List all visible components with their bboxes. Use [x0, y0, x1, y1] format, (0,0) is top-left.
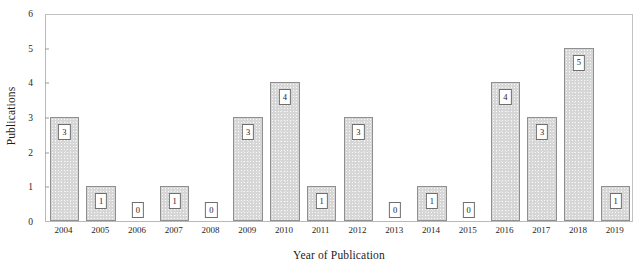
x-tick-label: 2009 [238, 225, 256, 235]
bar-slot: 0 [380, 15, 409, 221]
x-tick-label: 2015 [459, 225, 477, 235]
bar-value-label: 1 [609, 193, 621, 209]
y-tick-label: 6 [28, 9, 33, 19]
bar-value-label: 3 [536, 124, 548, 140]
bar-value-label: 5 [573, 55, 585, 71]
y-tick-label: 4 [28, 78, 33, 88]
y-axis-tick-labels: 0123456 [22, 14, 38, 222]
bar-value-label: 4 [499, 89, 511, 105]
bar[interactable]: 4 [491, 82, 520, 221]
bar[interactable]: 5 [564, 48, 593, 221]
plot-area: 3101034130104351 [45, 14, 633, 222]
bar-value-label: 3 [58, 124, 70, 140]
bar-value-label: 1 [315, 193, 327, 209]
bar-slot: 3 [50, 15, 79, 221]
x-tick-label: 2014 [422, 225, 440, 235]
bar[interactable]: 1 [307, 186, 336, 221]
bar-value-label: 0 [389, 202, 401, 218]
x-tick-label: 2019 [606, 225, 624, 235]
bar-value-label: 1 [168, 193, 180, 209]
bar-slot: 3 [344, 15, 373, 221]
publications-bar-chart: Publications 0123456 3101034130104351 20… [0, 0, 643, 273]
bar-slot: 1 [601, 15, 630, 221]
x-axis-tick-labels: 2004200520062007200820092010201120122013… [45, 225, 633, 241]
y-tick-label: 0 [28, 217, 33, 227]
bar-value-label: 1 [426, 193, 438, 209]
bars-container: 3101034130104351 [46, 15, 632, 221]
y-tick-mark [45, 118, 49, 119]
bar-slot: 1 [86, 15, 115, 221]
x-axis-title: Year of Publication [45, 249, 633, 261]
x-tick-label: 2011 [312, 225, 330, 235]
bar[interactable]: 1 [601, 186, 630, 221]
y-tick-mark [45, 83, 49, 84]
bar-slot: 0 [123, 15, 152, 221]
bar-slot: 0 [197, 15, 226, 221]
x-tick-label: 2012 [348, 225, 366, 235]
bar-slot: 1 [160, 15, 189, 221]
bar-slot: 4 [270, 15, 299, 221]
x-tick-label: 2017 [532, 225, 550, 235]
bar-value-label: 0 [132, 202, 144, 218]
y-axis-title-text: Publications [5, 87, 17, 146]
bar-slot: 0 [454, 15, 483, 221]
bar-slot: 1 [307, 15, 336, 221]
y-tick-label: 3 [28, 113, 33, 123]
bar-slot: 4 [491, 15, 520, 221]
y-tick-mark [45, 48, 49, 49]
x-tick-label: 2016 [495, 225, 513, 235]
bar-slot: 5 [564, 15, 593, 221]
x-tick-label: 2005 [91, 225, 109, 235]
bar[interactable]: 4 [270, 82, 299, 221]
bar[interactable]: 1 [86, 186, 115, 221]
bar[interactable]: 3 [50, 117, 79, 221]
x-tick-label: 2010 [275, 225, 293, 235]
bar-slot: 3 [233, 15, 262, 221]
y-tick-label: 2 [28, 148, 33, 158]
bar[interactable]: 1 [160, 186, 189, 221]
bar[interactable]: 3 [527, 117, 556, 221]
bar-value-label: 0 [205, 202, 217, 218]
y-tick-mark [45, 187, 49, 188]
y-tick-label: 1 [28, 182, 33, 192]
bar-value-label: 3 [352, 124, 364, 140]
bar-value-label: 3 [242, 124, 254, 140]
x-tick-label: 2008 [201, 225, 219, 235]
x-tick-label: 2013 [385, 225, 403, 235]
bar-value-label: 1 [95, 193, 107, 209]
bar[interactable]: 3 [344, 117, 373, 221]
bar-value-label: 4 [279, 89, 291, 105]
x-tick-label: 2018 [569, 225, 587, 235]
y-tick-label: 5 [28, 44, 33, 54]
bar-slot: 3 [527, 15, 556, 221]
x-tick-label: 2004 [54, 225, 72, 235]
bar[interactable]: 3 [233, 117, 262, 221]
bar-value-label: 0 [462, 202, 474, 218]
x-tick-label: 2007 [165, 225, 183, 235]
y-tick-mark [45, 152, 49, 153]
bar[interactable]: 1 [417, 186, 446, 221]
y-axis-title: Publications [0, 0, 22, 232]
bar-slot: 1 [417, 15, 446, 221]
x-tick-label: 2006 [128, 225, 146, 235]
